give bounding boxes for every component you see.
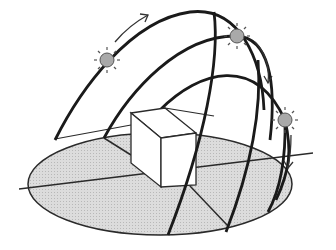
diagram-canvas [0,0,336,250]
sun-path-diagram [0,0,336,250]
sun-icon [94,47,120,73]
